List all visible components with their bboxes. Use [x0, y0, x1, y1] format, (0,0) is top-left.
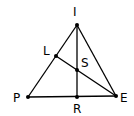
point-R: [75, 95, 79, 99]
label-L: L: [43, 44, 50, 58]
segment-PI: [28, 25, 77, 97]
label-I: I: [73, 5, 77, 19]
label-P: P: [13, 91, 20, 105]
point-L: [54, 54, 58, 58]
point-P: [26, 95, 30, 99]
point-I: [75, 23, 79, 27]
label-R: R: [73, 102, 81, 116]
segment-PE: [28, 96, 116, 97]
point-E: [114, 94, 118, 98]
label-E: E: [120, 91, 128, 105]
triangle-diagram: I L S P R E: [0, 0, 134, 116]
point-S: [75, 68, 79, 72]
label-S: S: [81, 56, 89, 70]
